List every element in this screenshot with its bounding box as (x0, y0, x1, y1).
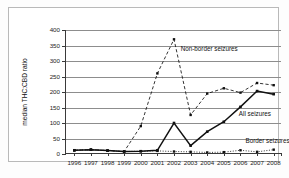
data-point-2003 (189, 114, 191, 116)
x-tick-2008 (274, 153, 275, 156)
x-tick-label-2001: 2001 (150, 159, 164, 166)
y-tick-label-50: 50 (53, 135, 60, 141)
y-tick-label-350: 350 (50, 42, 60, 48)
series-non-border-seizures (73, 38, 275, 153)
y-tick-150 (62, 108, 66, 109)
x-tick-label-2008: 2008 (267, 159, 281, 166)
x-tick-label-2002: 2002 (167, 159, 181, 166)
data-point-2004 (206, 130, 209, 133)
x-tick-label-1998: 1998 (101, 159, 115, 166)
data-point-2005 (223, 87, 225, 89)
x-tick-2001 (157, 153, 158, 156)
data-point-2005 (223, 120, 226, 123)
y-tick-300 (62, 61, 66, 62)
y-tick-label-150: 150 (50, 104, 60, 110)
series-line (74, 91, 273, 151)
x-axis-end-tick (281, 153, 282, 156)
data-point-1998 (106, 149, 108, 151)
x-tick-2004 (207, 153, 208, 156)
x-tick-label-2005: 2005 (217, 159, 231, 166)
data-point-2007 (256, 90, 259, 93)
y-axis-title: median THC:CBD ratio (19, 30, 31, 154)
data-point-2008 (272, 93, 275, 96)
x-tick-1996 (74, 153, 75, 156)
x-tick-2000 (141, 153, 142, 156)
data-point-2006 (239, 106, 242, 109)
x-tick-1999 (124, 153, 125, 156)
data-point-2006 (239, 149, 241, 151)
data-point-2002 (173, 38, 175, 40)
annotation-all-seizures: All seizures (239, 110, 271, 117)
data-point-1997 (90, 148, 92, 150)
x-tick-label-1996: 1996 (67, 159, 81, 166)
y-tick-100 (62, 123, 66, 124)
x-tick-label-2003: 2003 (184, 159, 198, 166)
y-tick-label-250: 250 (50, 73, 60, 79)
data-point-2004 (206, 92, 208, 94)
data-point-2001 (156, 150, 158, 152)
data-point-2003 (189, 144, 192, 147)
x-tick-label-1999: 1999 (117, 159, 131, 166)
y-tick-250 (62, 77, 66, 78)
x-tick-1997 (91, 153, 92, 156)
x-tick-2002 (174, 153, 175, 156)
x-tick-label-1997: 1997 (84, 159, 98, 166)
data-point-2008 (272, 84, 274, 86)
series-layer (66, 30, 281, 153)
x-tick-2007 (257, 153, 258, 156)
data-point-1996 (73, 149, 75, 151)
data-point-2001 (156, 72, 158, 74)
series-svg (66, 30, 282, 154)
data-point-2006 (239, 91, 241, 93)
annotation-non-border-seizures: Non-border seizures (181, 45, 238, 52)
y-tick-350 (62, 46, 66, 47)
x-tick-2003 (191, 153, 192, 156)
data-point-2007 (256, 82, 258, 84)
data-point-2008 (272, 148, 274, 150)
data-point-2002 (173, 122, 176, 125)
y-tick-label-400: 400 (50, 27, 60, 33)
data-point-2000 (140, 125, 142, 127)
y-tick-label-200: 200 (50, 89, 60, 95)
chart-figure: median THC:CBD ratio 0501001502002503003… (0, 0, 289, 178)
y-tick-label-300: 300 (50, 58, 60, 64)
x-tick-2005 (224, 153, 225, 156)
y-tick-0 (62, 154, 66, 155)
x-tick-label-2006: 2006 (234, 159, 248, 166)
x-tick-label-2007: 2007 (250, 159, 264, 166)
x-tick-label-2004: 2004 (200, 159, 214, 166)
y-tick-50 (62, 139, 66, 140)
y-tick-400 (62, 30, 66, 31)
y-tick-200 (62, 92, 66, 93)
y-tick-label-100: 100 (50, 120, 60, 126)
series-line (74, 39, 273, 151)
y-tick-label-0: 0 (57, 151, 60, 157)
plot-area: 0501001502002503003504001996199719981999… (65, 30, 281, 154)
x-tick-2006 (240, 153, 241, 156)
x-tick-label-2000: 2000 (134, 159, 148, 166)
annotation-border-seizures: Border seizures (245, 137, 289, 144)
x-tick-1998 (108, 153, 109, 156)
figure-frame: median THC:CBD ratio 0501001502002503003… (8, 7, 279, 162)
